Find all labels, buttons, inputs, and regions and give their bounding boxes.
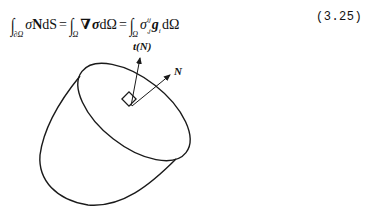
body-surface-diagram: t(N) N <box>0 0 388 214</box>
normal-label: N <box>173 65 183 77</box>
traction-label: t(N) <box>133 40 151 53</box>
surface-face-ellipse <box>61 45 207 180</box>
body-outline <box>40 76 176 205</box>
normal-vector-arrow <box>132 75 170 106</box>
